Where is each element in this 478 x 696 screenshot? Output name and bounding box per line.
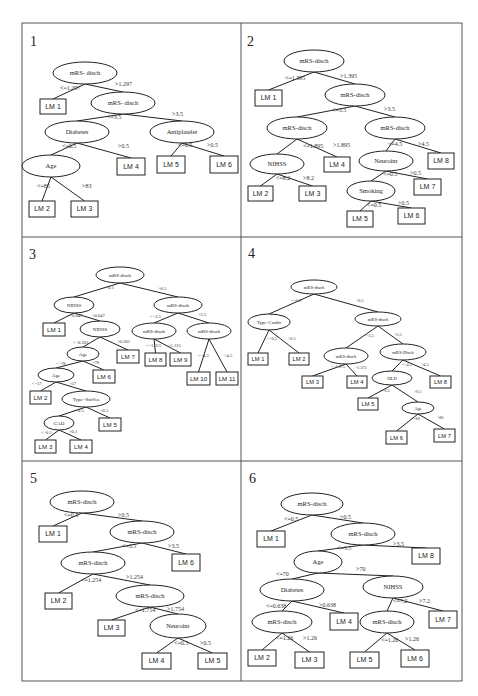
split-node: mRS-disch [365,117,425,139]
leaf-node: LM 1 [43,323,65,336]
tree-edge [51,177,85,201]
leaf-node: LM 8 [412,548,440,564]
tree-edge [312,515,363,523]
split-condition-label: <=0.5 [174,640,188,646]
tree-edge [120,283,178,297]
leaf-node: LM 9 [170,353,191,366]
split-node: mRS-disch [116,585,184,607]
linear-model-label: LM 4 [351,379,365,385]
split-condition-label: <=0.203 [73,340,89,345]
tree-edge [261,174,278,186]
split-variable-label: Smoking [359,187,383,194]
split-node: CAD [44,416,74,430]
leaf-node: LM 2 [29,201,55,217]
split-variable-label: mRS-disch [136,592,166,599]
nodes: mRS-dischNIHSSmRS-dischLM 1NIHSSmRS-disc… [30,267,238,453]
leaf-node: LM 8 [145,353,166,366]
split-condition-label: <=85 [37,183,50,189]
split-node: mRS-disch [252,611,312,633]
split-node: Age [402,402,434,414]
leaf-node: LM 6 [401,650,429,667]
split-condition-label: <=0.638 [266,603,286,609]
split-node: mRS-disch [50,491,114,513]
split-variable-label: Diabetes [66,128,89,135]
split-condition-label: <=0.5 [103,285,114,290]
leaf-node: LM 5 [350,652,379,668]
split-variable-label: Neuroinr [374,157,398,164]
split-variable-label: mRS-disch [336,354,357,359]
split-variable-label: Age [414,406,422,411]
split-node: Age [22,155,80,177]
split-variable-label: Age [52,373,61,378]
split-node: Age [38,368,74,382]
split-variable-label: NIHSS [67,303,82,308]
leaf-node: LM 8 [428,153,454,169]
tree-edge [258,330,269,353]
split-variable-label: Age [79,352,88,357]
leaf-node: LM 4 [347,376,367,388]
tree-edge [292,601,344,613]
split-variable-label: mRS-disch [298,500,328,507]
split-node: mRS-disch [324,348,368,364]
split-variable-label: mRS-disch [79,559,109,566]
linear-model-label: LM 9 [174,356,188,363]
panel-5: 5<=0.5>0.5<=3.5>3.5<=1.254>1.254<=1.754>… [30,471,227,669]
split-condition-label: >7.2 [419,598,430,604]
split-variable-label: mRS- disch [70,69,101,76]
linear-model-label: LM 1 [47,326,61,333]
split-condition-label: >1.395 [340,73,357,79]
leaf-node: LM 2 [289,353,309,365]
split-condition-label: <=0.5 [267,336,277,341]
leaf-node: LM 3 [295,652,324,668]
split-condition-label: >57 [69,381,77,386]
panel-4: 4<=0.5>0.5<=0.5>0.5<=3.5>3.5<=1.375>1.37… [248,246,455,444]
linear-model-label: LM 8 [418,552,434,559]
split-node: mRS-disch [96,267,144,283]
panel-number: 3 [29,247,36,262]
linear-model-label: LM 4 [149,657,165,664]
split-condition-label: <=1.26 [276,635,293,641]
linear-model-label: LM 3 [306,379,319,385]
split-node: NIHSS [363,576,423,598]
split-variable-label: Age [46,162,57,169]
split-condition-label: >3.5 [168,543,179,549]
leaf-node: LM 6 [93,370,115,383]
split-variable-label: NIHSS [268,160,287,167]
split-condition-label: >70 [356,566,365,572]
split-condition-label: >1.754 [167,606,184,612]
linear-model-label: LM 2 [34,394,48,401]
panel-number: 4 [248,246,255,261]
panel-number: 2 [247,34,254,49]
linear-model-label: LM 4 [336,618,352,625]
split-node: NIHSS [80,321,120,337]
linear-model-label: LM 6 [216,161,232,168]
split-condition-label: >0.5 [410,170,421,176]
leaf-node: LM 3 [299,186,326,201]
leaf-node: LM 3 [98,620,125,636]
leaf-node: LM 1 [248,353,268,365]
linear-model-label: LM 3 [77,205,93,212]
split-node: Age [294,551,342,573]
split-node: mRS-disch [132,323,176,339]
split-condition-label: >0.1 [69,429,77,434]
split-condition-label: >0.5 [414,389,421,394]
split-node: Neuroinr [359,151,413,171]
split-condition-label: >3.5 [198,312,207,317]
split-variable-label: mRS-disch [304,285,325,290]
split-condition-label: <=1.297 [60,85,80,91]
split-node: mRS-disch [154,297,202,313]
split-node: mRS-disch [267,117,327,139]
tree-edge [82,513,142,521]
nodes: mRS-dischLM 1mRS-dischAgeLM 8DiabetesNIH… [248,493,457,668]
linear-model-label: LM 1 [263,535,279,542]
linear-model-label: LM 5 [352,215,368,222]
leaf-node: LM 1 [257,531,285,547]
split-condition-label: >1.254 [126,574,143,580]
split-condition-label: >0.638 [319,602,336,608]
split-condition-label: >0.5 [118,143,129,149]
leaf-node: LM 4 [142,653,171,669]
split-variable-label: Type=Cardio [257,320,282,325]
linear-model-label: LM 5 [357,656,373,663]
panel-3: 3<=0.5>0.5<=0.047>0.047<=3.5>3.5<=0.203>… [29,247,238,453]
linear-model-label: LM 4 [74,443,88,450]
